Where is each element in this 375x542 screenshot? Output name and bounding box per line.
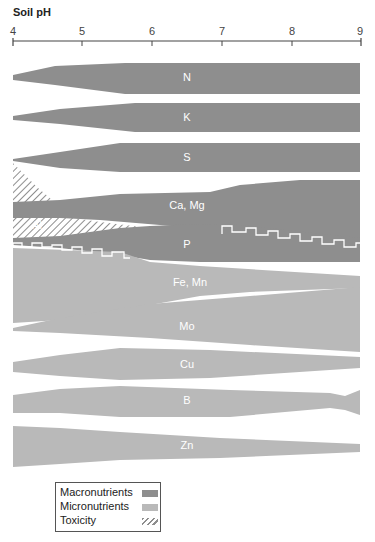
tick-6: 6 — [149, 25, 155, 37]
legend-swatch-macronutrients — [142, 490, 158, 497]
label-cu: Cu — [180, 358, 194, 370]
legend-swatch-micronutrients — [142, 504, 158, 511]
label-mo: Mo — [179, 320, 194, 332]
tick-4: 4 — [10, 25, 16, 37]
band-al-toxicity-upper — [13, 163, 55, 204]
label-fe-mn: Fe, Mn — [173, 276, 207, 288]
label-ca-mg: Ca, Mg — [169, 199, 204, 211]
legend-label-toxicity: Toxicity — [60, 514, 96, 526]
label-p: P — [183, 238, 190, 250]
tick-9: 9 — [357, 25, 363, 37]
label-k: K — [183, 111, 191, 123]
x-axis: 4 5 6 7 8 9 — [10, 25, 363, 46]
legend-swatch-toxicity-hatch — [142, 518, 158, 525]
legend: Macronutrients Micronutrients Toxicity — [55, 482, 161, 532]
tick-7: 7 — [219, 25, 225, 37]
label-b: B — [183, 394, 190, 406]
label-al: Al — [32, 219, 42, 231]
legend-label-macronutrients: Macronutrients — [60, 486, 133, 498]
nutrient-availability-chart: 4 5 6 7 8 9 N K S Ca, Mg P Fe, Mn Mo Cu … — [0, 0, 375, 542]
legend-label-micronutrients: Micronutrients — [60, 500, 129, 512]
label-s: S — [183, 151, 190, 163]
tick-5: 5 — [79, 25, 85, 37]
tick-8: 8 — [289, 25, 295, 37]
label-n: N — [183, 71, 191, 83]
label-zn: Zn — [181, 439, 194, 451]
